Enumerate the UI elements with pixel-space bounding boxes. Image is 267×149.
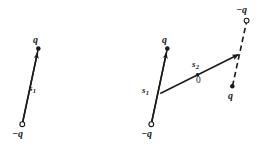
right-vector-s1-symbol: s <box>142 85 146 95</box>
right-vector-s1-label: s1 <box>142 86 149 95</box>
right-lower-positive-charge-dot <box>165 46 170 51</box>
right-lower-positive-charge-label: q <box>162 35 167 45</box>
left-negative-charge-label: −q <box>12 129 23 139</box>
right-vector-s1-subscript: 1 <box>146 89 149 96</box>
figure-root: q −q s1 q −q s1 s2 0 −q q <box>0 0 267 149</box>
right-lower-negative-charge-label: −q <box>141 129 152 139</box>
left-positive-charge-label: q <box>33 35 38 45</box>
right-vector-s1-arrow <box>152 53 167 123</box>
right-upper-negative-charge-label: −q <box>236 5 247 15</box>
right-lower-dipole-group <box>149 46 170 126</box>
right-vector-s2-subscript: 2 <box>196 63 199 70</box>
right-vector-s2-arrow <box>160 55 238 94</box>
right-vector-s2-symbol: s <box>192 59 196 69</box>
vector-diagram-canvas <box>0 0 267 149</box>
left-vector-s1-symbol: s <box>29 83 33 93</box>
left-vector-s1-subscript: 1 <box>33 87 36 94</box>
left-negative-charge-circle <box>20 122 25 127</box>
left-vector-s1-label: s1 <box>29 84 36 93</box>
right-lower-negative-charge-circle <box>149 122 154 127</box>
left-positive-charge-dot <box>36 46 41 51</box>
right-vector-s2-label: s2 <box>192 60 199 69</box>
right-upper-dipole-group <box>230 18 249 88</box>
right-upper-positive-charge-label: q <box>228 91 233 101</box>
right-upper-dipole-dashed-line <box>233 22 247 86</box>
right-upper-negative-charge-circle <box>244 18 249 23</box>
right-origin-label: 0 <box>196 76 201 86</box>
right-vector-s2-group <box>160 55 238 94</box>
right-upper-positive-charge-dot <box>230 84 235 89</box>
